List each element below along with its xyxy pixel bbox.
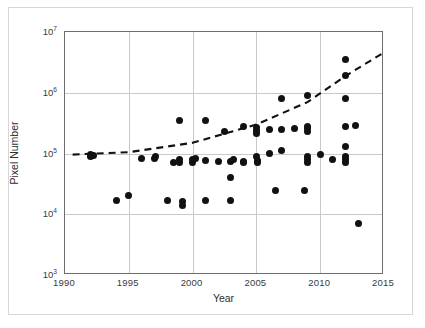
x-tick-label: 2000 [181,277,203,288]
y-tick-label: 106 [43,86,57,98]
y-axis-label: Pixel Number [8,121,20,184]
x-tick-label: 1995 [117,277,139,288]
x-tick-label: 2005 [244,277,266,288]
plot-area [64,31,383,274]
trend-line [65,32,384,275]
x-axis-label: Year [64,292,383,304]
x-tick-label: 2015 [372,277,394,288]
y-tick-label: 103 [43,268,57,280]
y-tick-label: 104 [43,207,57,219]
y-tick-label: 107 [43,25,57,37]
x-tick-label: 2010 [308,277,330,288]
figure-container: 199019952000200520102015 103104105106107… [0,0,425,328]
y-tick-label: 105 [43,146,57,158]
